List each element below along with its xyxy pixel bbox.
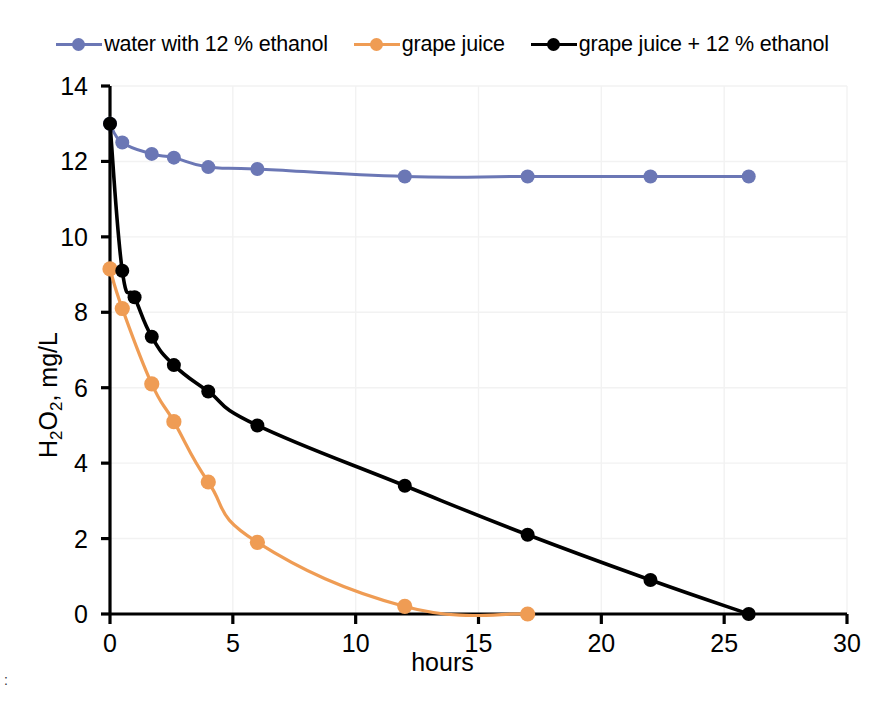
x-tick-label: 5	[226, 630, 240, 656]
data-point	[167, 151, 181, 165]
data-point	[521, 170, 535, 184]
data-point	[397, 599, 412, 614]
data-point	[115, 136, 129, 150]
data-point	[103, 117, 117, 131]
chart-figure: water with 12 % ethanol grape juice grap…	[0, 0, 885, 710]
data-point	[250, 418, 264, 432]
data-point	[128, 290, 142, 304]
data-point	[201, 474, 216, 489]
data-point	[643, 170, 657, 184]
data-point	[145, 147, 159, 161]
x-tick-label: 15	[465, 630, 493, 656]
data-point	[201, 160, 215, 174]
series-water-with-12-ethanol	[103, 117, 756, 184]
data-point	[166, 414, 181, 429]
x-tick-label: 25	[710, 630, 738, 656]
data-point	[145, 330, 159, 344]
data-point	[115, 264, 129, 278]
x-tick-label: 30	[833, 630, 861, 656]
data-point	[521, 528, 535, 542]
y-tick-label: 4	[16, 450, 88, 476]
data-point	[250, 535, 265, 550]
data-point	[742, 170, 756, 184]
y-tick-label: 12	[16, 148, 88, 174]
y-tick-label: 6	[16, 375, 88, 401]
data-point	[398, 170, 412, 184]
data-point	[398, 479, 412, 493]
series-grape-juice	[102, 261, 535, 621]
x-tick-label: 10	[342, 630, 370, 656]
data-point	[115, 301, 130, 316]
x-axis-title: hours	[0, 648, 885, 677]
series-line	[110, 124, 749, 614]
corner-artifact: :	[4, 672, 9, 688]
y-tick-label: 14	[16, 73, 88, 99]
x-tick-label: 0	[103, 630, 117, 656]
data-point	[102, 261, 117, 276]
data-point	[520, 606, 535, 621]
data-point	[201, 384, 215, 398]
gridlines	[110, 86, 847, 614]
data-point	[167, 358, 181, 372]
plot-svg	[0, 0, 885, 710]
y-tick-label: 0	[16, 601, 88, 627]
data-point	[643, 573, 657, 587]
y-tick-label: 2	[16, 526, 88, 552]
series-line	[110, 269, 528, 616]
series-grape-juice-12-ethanol	[103, 117, 756, 621]
plot-area	[0, 0, 885, 710]
y-tick-label: 10	[16, 224, 88, 250]
data-point	[742, 607, 756, 621]
data-point	[144, 376, 159, 391]
x-tick-label: 20	[587, 630, 615, 656]
y-tick-label: 8	[16, 299, 88, 325]
data-point	[250, 162, 264, 176]
